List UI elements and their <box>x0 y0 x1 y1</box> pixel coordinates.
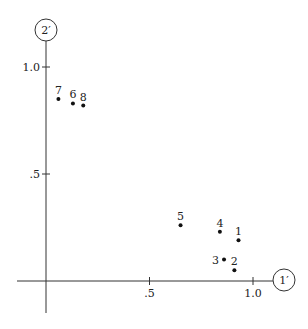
y-tick-label: 1.0 <box>23 61 41 74</box>
data-points: 12345678 <box>55 84 242 272</box>
data-point <box>81 104 85 108</box>
point-label: 2 <box>231 255 238 268</box>
point-label: 8 <box>80 91 87 104</box>
y-tick-label: .5 <box>30 168 41 181</box>
scatter-chart: .51.0.51.0 12345678 1′2′ <box>0 0 308 329</box>
point-label: 1 <box>235 225 242 238</box>
data-point <box>71 101 75 105</box>
data-point <box>218 230 222 234</box>
y-axis-label: 2′ <box>41 24 51 37</box>
point-label: 6 <box>69 88 76 101</box>
axis-labels: 1′2′ <box>35 19 295 291</box>
point-label: 4 <box>216 217 223 230</box>
point-label: 7 <box>55 84 62 97</box>
data-point <box>232 268 236 272</box>
data-point <box>179 223 183 227</box>
data-point <box>237 238 241 242</box>
x-tick-label: 1.0 <box>244 287 262 300</box>
point-label: 5 <box>177 210 184 223</box>
x-axis-label: 1′ <box>279 274 289 287</box>
data-point <box>222 258 226 262</box>
x-tick-label: .5 <box>144 287 155 300</box>
point-label: 3 <box>212 254 219 267</box>
data-point <box>56 97 60 101</box>
